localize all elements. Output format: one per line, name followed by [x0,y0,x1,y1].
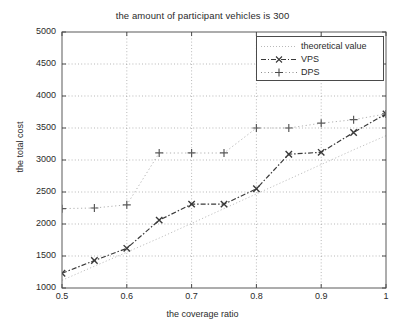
chart-figure: the amount of participant vehicles is 30… [0,0,405,332]
x-axis-label: the coverage ratio [0,309,405,319]
y-tick-label: 1500 [22,250,56,260]
legend-label-vps: VPS [301,54,319,64]
legend-swatch-theoretical-value [257,39,301,52]
y-tick-label: 3000 [22,154,56,164]
x-tick-label: 0.5 [47,291,77,301]
x-tick-label: 0.9 [306,291,336,301]
x-tick-label: 0.7 [177,291,207,301]
legend-swatch-dps [257,65,301,78]
x-tick-label: 1 [371,291,401,301]
y-tick-label: 2000 [22,218,56,228]
y-tick-label: 5000 [22,26,56,36]
legend-item-vps: VPS [257,52,383,65]
legend-item-theoretical-value: theoretical value [257,39,383,52]
legend-label-theoretical-value: theoretical value [301,41,367,51]
y-axis-label: the total cost [15,102,25,192]
y-tick-label: 2500 [22,186,56,196]
x-tick-label: 0.6 [112,291,142,301]
legend-label-dps: DPS [301,67,320,77]
x-tick-label: 0.8 [241,291,271,301]
data-series-layer [58,110,390,280]
chart-legend: theoretical value VPS DPS [256,36,384,81]
legend-item-dps: DPS [257,65,383,78]
y-tick-label: 4000 [22,90,56,100]
legend-swatch-vps [257,52,301,65]
y-tick-label: 3500 [22,122,56,132]
y-tick-label: 4500 [22,58,56,68]
